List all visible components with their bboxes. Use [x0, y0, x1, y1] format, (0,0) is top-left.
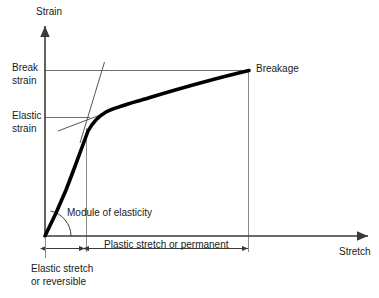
break-strain-label-line1: Break [12, 62, 38, 73]
breakage-label: Breakage [256, 63, 299, 75]
elastic-strain-label: Elastic strain [12, 110, 46, 135]
module-of-elasticity-label: Module of elasticity [67, 207, 152, 219]
y-axis-label: Strain [36, 6, 62, 18]
elastic-strain-label-line1: Elastic [12, 110, 41, 121]
diagram-canvas [0, 0, 379, 298]
break-strain-label-line2: strain [12, 75, 36, 86]
elastic-stretch-label-line2: or reversible [31, 276, 86, 287]
stress-strain-diagram: Strain Break strain Elastic strain Break… [0, 0, 379, 298]
tangent-modulus-line [80, 62, 105, 143]
elastic-stretch-label-line1: Elastic stretch [31, 263, 93, 274]
plastic-stretch-label: Plastic stretch or permanent [104, 239, 229, 251]
break-strain-label: Break strain [12, 62, 46, 87]
x-axis-label: Stretch [339, 246, 371, 258]
elastic-strain-label-line2: strain [12, 123, 36, 134]
elastic-stretch-label: Elastic stretch or reversible [31, 263, 121, 288]
